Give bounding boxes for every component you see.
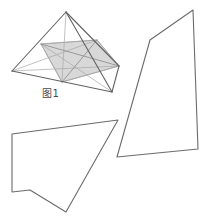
figure-background [0,0,203,219]
geometry-figure-svg [0,0,203,219]
geometry-figure-canvas: 图1 [0,0,203,219]
figure-caption: 图1 [42,88,59,100]
